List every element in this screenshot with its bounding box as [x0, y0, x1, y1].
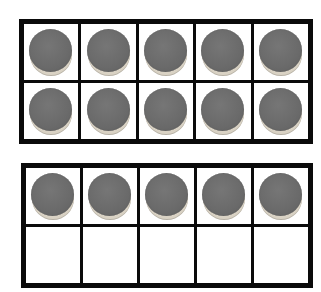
counter-disc-icon	[144, 29, 188, 75]
ten-frame-cell-filled	[197, 168, 251, 224]
counter-disc-icon	[201, 29, 245, 75]
ten-frame-cell-filled	[254, 83, 308, 139]
counter-disc-icon	[29, 88, 73, 134]
counter-disc-icon	[29, 29, 73, 75]
ten-frame-cell-filled	[140, 168, 194, 224]
counter-disc-icon	[144, 88, 188, 134]
counter-disc-icon	[87, 88, 131, 134]
counter-disc-icon	[88, 173, 132, 219]
ten-frame-cell-filled	[139, 24, 193, 80]
ten-frame-cell-filled	[26, 168, 80, 224]
counter-disc-icon	[259, 88, 303, 134]
ten-frame-cell-filled	[254, 168, 308, 224]
ten-frame-full	[19, 19, 313, 144]
counter-disc-icon	[259, 29, 303, 75]
ten-frame-cell-filled	[81, 24, 135, 80]
ten-frame-cell-filled	[254, 24, 308, 80]
counter-disc-icon	[202, 173, 246, 219]
ten-frame-cell-empty	[83, 227, 137, 283]
counter-disc-icon	[87, 29, 131, 75]
ten-frame-cell-filled	[81, 83, 135, 139]
ten-frame-cell-filled	[196, 83, 250, 139]
counter-disc-icon	[201, 88, 245, 134]
ten-frame-cell-empty	[197, 227, 251, 283]
ten-frame-cell-filled	[196, 24, 250, 80]
ten-frame-cell-empty	[140, 227, 194, 283]
counter-disc-icon	[259, 173, 303, 219]
ten-frame-cell-filled	[139, 83, 193, 139]
ten-frame-partial	[21, 163, 313, 288]
ten-frame-cell-empty	[26, 227, 80, 283]
ten-frame-cell-empty	[254, 227, 308, 283]
ten-frame-cell-filled	[83, 168, 137, 224]
ten-frame-cell-filled	[24, 24, 78, 80]
counter-disc-icon	[145, 173, 189, 219]
counter-disc-icon	[31, 173, 75, 219]
ten-frame-cell-filled	[24, 83, 78, 139]
